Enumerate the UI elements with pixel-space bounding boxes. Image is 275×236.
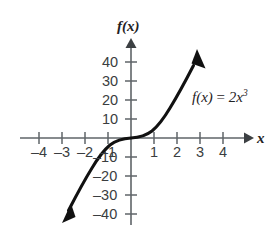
x-tick-label: –4: [31, 145, 47, 160]
y-tick-label: –30: [93, 188, 117, 203]
y-tick-label: 30: [102, 74, 118, 89]
y-axis-group: [125, 38, 137, 225]
x-tick-label: 2: [173, 145, 181, 160]
equation-fx: f(x): [192, 89, 213, 105]
x-tick-label: –2: [77, 145, 93, 160]
x-axis-arrow-icon: [244, 133, 254, 144]
graph-canvas: [0, 0, 275, 236]
y-axis-arrow-icon: [126, 38, 137, 48]
equation-term: 2x: [229, 89, 243, 105]
x-tick-label: –3: [54, 145, 70, 160]
y-tick-label: –40: [93, 207, 117, 222]
curve-arrow-down-icon: [62, 204, 76, 224]
x-tick-label: 1: [150, 145, 158, 160]
x-axis-title: x: [257, 131, 265, 146]
y-tick-label: –20: [93, 169, 117, 184]
function-curve-group: [62, 49, 206, 223]
y-axis-title: f(x): [117, 19, 140, 34]
equation-exponent: 3: [243, 88, 248, 98]
equation-equals: =: [217, 89, 225, 105]
y-tick-label: 40: [102, 55, 118, 70]
y-tick-label: 10: [102, 112, 118, 127]
x-tick-label: 3: [196, 145, 204, 160]
function-equation-label: f(x) = 2x3: [192, 89, 248, 105]
y-tick-label: 20: [102, 93, 118, 108]
cubic-function-graph-figure: f(x) x 40 30 20 10 –10 –20 –30 –40 –4 –3…: [0, 0, 275, 236]
x-tick-label: –1: [100, 145, 116, 160]
x-tick-label: 4: [219, 145, 227, 160]
